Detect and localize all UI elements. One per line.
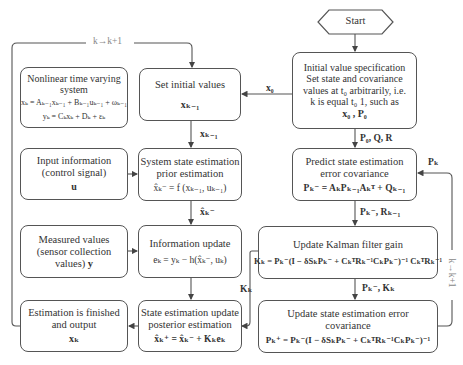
predict-line2: error covariance	[320, 168, 389, 180]
state-update-math: x̂ₖ⁺ = x̂ₖ⁻ + Kₖeₖ	[154, 333, 225, 345]
nonlinear-title2: system	[60, 84, 88, 95]
initial-value-spec-box: Initial value specification Set state an…	[292, 52, 417, 129]
edge-label-pk-k: Pₖ⁻, Kₖ	[362, 282, 395, 293]
info-update-math: eₖ = yₖ − h(x̂ₖ⁻, uₖ)	[153, 254, 226, 266]
set-initial-values-box: Set initial values xₖ₋₁	[139, 68, 241, 121]
initial-spec-line2: values at t₀ arbitrarily, i.e.	[303, 85, 406, 97]
finished-line1: Estimation is finished	[28, 307, 120, 319]
kalman-gain-title: Update Kalman filter gain	[293, 239, 403, 251]
edge-label-p0qr: P₀, Q, R	[360, 133, 392, 143]
nonlinear-system-box: Nonlinear time varying system xₖ = Aₖ₋₁x…	[20, 67, 128, 128]
initial-spec-line1: Set state and covariance	[306, 73, 402, 85]
update-cov-line2: covariance	[325, 320, 370, 332]
state-update-line2: posterior estimation	[148, 319, 232, 331]
state-estimation-update-box: State estimation update posterior estima…	[138, 300, 242, 352]
nonlinear-eq1: xₖ = Aₖ₋₁xₖ₋₁ + Bₖ₋₁uₖ₋₁ + ωₖ₋₁	[21, 97, 127, 108]
info-update-title: Information update	[150, 238, 231, 250]
update-covariance-box: Update state estimation error covariance…	[258, 300, 438, 353]
state-update-line1: State estimation update	[141, 307, 239, 319]
system-state-line2: prior estimation	[157, 168, 224, 180]
update-cov-math: Pₖ⁺ = Pₖ⁻(I − δSₖPₖ⁻ + CₖᵀRₖ⁻¹CₖPₖ⁻)⁻¹	[266, 334, 431, 346]
input-info-math: u	[71, 181, 77, 193]
edge-label-xhat: x̂ₖ⁻	[200, 206, 215, 217]
predict-line1: Predict state estimation	[306, 156, 404, 168]
input-info-line2: (control signal)	[42, 167, 106, 179]
initial-spec-line3: k is equal t₀ 1, such as	[310, 96, 399, 108]
kalman-gain-box: Update Kalman filter gain Kₖ = Pₖ⁻(I − δ…	[258, 226, 438, 279]
estimation-finished-box: Estimation is finished and output xₖ	[20, 300, 128, 352]
measured-line3: values)	[55, 258, 85, 269]
start-label: Start	[317, 15, 394, 26]
kalman-gain-math: Kₖ = Pₖ⁻(I − δSₖPₖ⁻ + CₖᵀRₖ⁻¹CₖPₖ⁻)⁻¹ Cₖ…	[254, 255, 442, 267]
nonlinear-title1: Nonlinear time varying	[27, 73, 120, 84]
set-initial-title: Set initial values	[155, 79, 225, 91]
system-state-math: x̂ₖ⁻ = f (xₖ₋₁, uₖ₋₁)	[153, 182, 226, 194]
edge-label-kk: Kₖ	[240, 283, 252, 294]
edge-label-x0: x₀	[266, 83, 274, 93]
measured-values-box: Measured values (sensor collection value…	[20, 225, 128, 278]
edge-label-xk1: xₖ₋₁	[200, 128, 218, 139]
loop-label-top: k→k+1	[93, 36, 122, 46]
input-information-box: Input information (control signal) u	[20, 148, 128, 200]
measured-line1: Measured values	[39, 234, 110, 246]
edge-label-pk-back: Pₖ	[428, 156, 439, 167]
system-state-estimation-box: System state estimation prior estimation…	[138, 148, 242, 201]
nonlinear-eq2: yₖ = Cₖxₖ + Dₖ + εₖ	[43, 111, 106, 122]
set-initial-math: xₖ₋₁	[181, 99, 200, 111]
finished-math: xₖ	[69, 333, 79, 345]
loop-label-right: k→k+1	[447, 255, 457, 291]
update-cov-line1: Update state estimation error	[287, 308, 409, 320]
measured-math: y	[88, 258, 93, 269]
input-info-line1: Input information	[37, 155, 111, 167]
initial-spec-math: x₀ , P₀	[342, 108, 367, 120]
system-state-line1: System state estimation	[140, 156, 239, 168]
measured-line2: (sensor collection	[37, 246, 111, 258]
predict-math: Pₖ⁻ = AₖPₖ₋₁Aₖᵀ + Qₖ₋₁	[304, 182, 406, 194]
finished-line2: and output	[52, 319, 97, 331]
predict-covariance-box: Predict state estimation error covarianc…	[292, 148, 417, 201]
information-update-box: Information update eₖ = yₖ − h(x̂ₖ⁻, uₖ)	[138, 225, 242, 278]
initial-spec-title: Initial value specification	[304, 62, 406, 74]
edge-label-pk-r: Pₖ⁻, Rₖ₋₁	[360, 206, 400, 217]
